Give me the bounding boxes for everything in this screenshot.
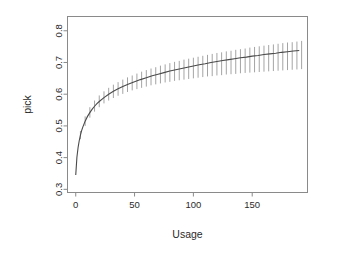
y-tick-label: 0.6 [53,88,64,101]
fitted-curve [76,50,300,175]
tick-labels-group: 0.30.40.50.60.70.8050100150 [53,24,260,209]
y-tick-label: 0.3 [53,183,64,196]
x-axis-title: Usage [172,228,203,240]
errorbar-group [80,41,301,139]
y-tick-label: 0.4 [53,151,64,164]
y-tick-label: 0.8 [53,24,64,37]
plot-border [68,17,308,193]
chart-svg: 0.30.40.50.60.70.8050100150 Usage pick [0,0,343,260]
axes-group [64,17,308,197]
figure-canvas: 0.30.40.50.60.70.8050100150 Usage pick [0,0,343,260]
x-tick-label: 50 [129,199,140,210]
x-tick-label: 0 [73,199,78,210]
y-axis-title: pick [21,94,33,113]
y-tick-label: 0.7 [53,56,64,69]
y-tick-label: 0.5 [53,119,64,132]
x-tick-label: 100 [185,199,201,210]
x-tick-label: 150 [244,199,260,210]
